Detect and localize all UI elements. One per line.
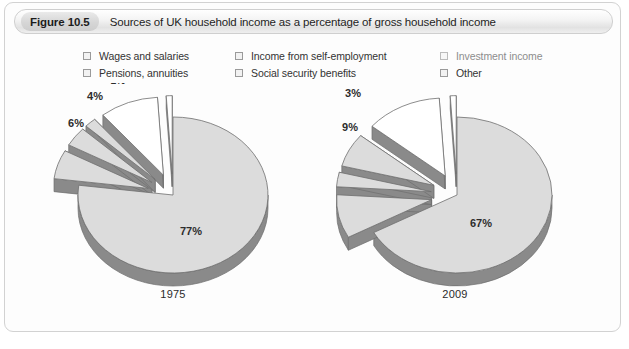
pie-slice-label: 2% [111, 83, 126, 86]
legend-label: Wages and salaries [99, 50, 189, 62]
pie-slice-label: 3% [345, 87, 361, 99]
legend-label: Investment income [456, 50, 542, 62]
legend-item-wages-and-salaries: Wages and salaries [83, 47, 235, 64]
legend-item-investment-income: Investment income [440, 47, 583, 64]
checkbox-swatch-icon [440, 69, 448, 77]
legend-item-social-security-benefits: Social security benefits [235, 64, 440, 81]
figure-frame: Figure 10.5 Sources of UK household inco… [4, 2, 621, 332]
legend-label: Other [456, 67, 482, 79]
legend-item-pensions-annuities: Pensions, annuities [83, 64, 235, 81]
legend-item-other: Other [440, 64, 583, 81]
pie-chart-2009-year-label: 2009 [305, 288, 605, 300]
figure-number-badge: Figure 10.5 [21, 12, 99, 31]
pie-slice-label: 4% [87, 90, 103, 102]
checkbox-swatch-icon [235, 52, 243, 60]
checkbox-swatch-icon [440, 52, 448, 60]
legend-label: Social security benefits [251, 67, 356, 79]
checkbox-swatch-icon [83, 69, 91, 77]
figure-caption: Sources of UK household income as a perc… [110, 16, 496, 28]
checkbox-swatch-icon [83, 52, 91, 60]
pie-chart-2009: 67%9%3%7%13%1% 2009 [305, 83, 605, 332]
legend-label: Income from self-employment [251, 50, 387, 62]
pie-chart-1975-year-label: 1975 [23, 288, 323, 300]
pie-slice-label: 6% [68, 117, 84, 129]
legend-label: Pensions, annuities [99, 67, 188, 79]
pie-slice-label: 77% [180, 225, 202, 237]
legend-item-income-from-self-employment: Income from self-employment [235, 47, 440, 64]
pie-chart-1975: 77%6%4%2%10%1% 1975 [23, 83, 323, 332]
chart-legend: Wages and salaries Income from self-empl… [83, 47, 583, 81]
figure-header: Figure 10.5 Sources of UK household inco… [14, 9, 613, 34]
pie-slice-label: 9% [342, 121, 358, 133]
charts-container: 77%6%4%2%10%1% 1975 67%9%3%7%13%1% 2009 [5, 83, 621, 332]
checkbox-swatch-icon [235, 69, 243, 77]
pie-slice-label: 67% [470, 217, 492, 229]
